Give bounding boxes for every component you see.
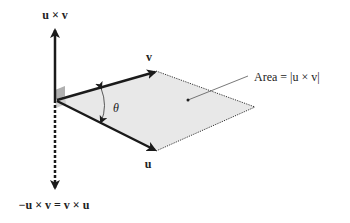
cross-product-diagram: u × v v u θ Area = |u × v| −u × v = v × … bbox=[0, 0, 350, 223]
label-cross-up: u × v bbox=[42, 8, 68, 22]
label-u: u bbox=[145, 157, 152, 171]
label-area: Area = |u × v| bbox=[254, 70, 320, 84]
parallelogram bbox=[55, 71, 255, 151]
label-v: v bbox=[146, 50, 152, 64]
label-theta: θ bbox=[113, 101, 119, 115]
area-leader-dot bbox=[187, 99, 190, 102]
label-cross-down: −u × v = v × u bbox=[19, 198, 90, 212]
